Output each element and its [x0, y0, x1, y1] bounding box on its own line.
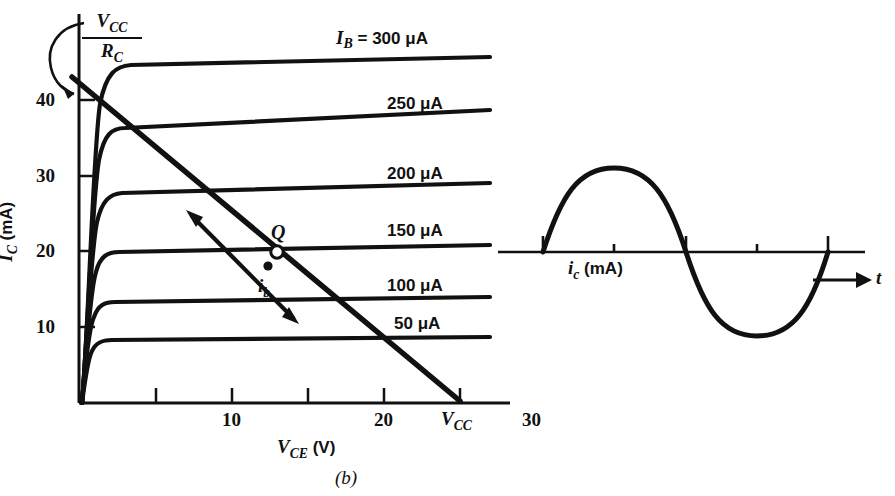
- y-axis-title: IC (mA): [0, 202, 20, 262]
- x-axis-vcc-symbol: V: [441, 408, 454, 429]
- y-tick-label-20: 20: [36, 241, 55, 260]
- x-tick-label-30: 30: [522, 410, 541, 429]
- curve-label-50uA: 50 μA: [394, 315, 440, 332]
- time-axis-label: t: [876, 268, 881, 287]
- left-plot-axes: [79, 14, 510, 403]
- fraction-numerator-subscript: CC: [109, 20, 127, 35]
- figure-caption: (b): [335, 468, 357, 487]
- fraction-numerator-symbol: V: [97, 10, 110, 31]
- curve-label-150uA: 150 μA: [387, 222, 443, 239]
- vcc-over-rc-fraction: VCC RC: [82, 10, 142, 66]
- y-axis-unit: (mA): [0, 202, 16, 241]
- ib-label-subscript: b: [263, 285, 270, 300]
- time-arrowhead: [856, 272, 872, 288]
- y-tick-label-30: 30: [36, 166, 55, 185]
- x-axis-ticks: [156, 388, 460, 403]
- fraction-denominator-subscript: C: [114, 50, 123, 65]
- q-point-label: Q: [271, 222, 285, 242]
- q-point-marker: [271, 246, 283, 258]
- x-axis-subscript: CE: [290, 446, 308, 461]
- curve-label-250uA: 250 μA: [387, 95, 443, 112]
- ib-label-group: ib: [258, 276, 270, 299]
- curve-label-300uA-group: IB = 300 μA: [336, 28, 428, 51]
- curve-label-300uA: 300 μA: [372, 29, 428, 48]
- ib-family-subscript: B: [343, 36, 352, 51]
- fraction-denominator: RC: [82, 40, 142, 66]
- figure-root: 10 20 30 40 IC (mA) 10 20 30 VCC VCE (V)…: [0, 0, 895, 496]
- x-tick-label-20: 20: [374, 410, 393, 429]
- curve-label-200uA: 200 μA: [387, 165, 443, 182]
- ic-label-unit: (mA): [584, 259, 623, 278]
- x-tick-label-10: 10: [222, 410, 241, 429]
- fraction-denominator-symbol: R: [101, 40, 114, 61]
- y-axis-subscript: C: [5, 245, 20, 254]
- x-axis-vcc-subscript: CC: [454, 418, 472, 433]
- ib-point-marker: [263, 261, 272, 270]
- x-axis-vcc-label: VCC: [441, 409, 472, 432]
- x-axis-unit: (V): [313, 438, 336, 457]
- curve-label-100uA: 100 μA: [387, 277, 443, 294]
- ic-waveform-label-group: ic (mA): [568, 258, 623, 281]
- x-axis-title: VCE (V): [277, 437, 335, 460]
- fraction-bar: [82, 37, 142, 39]
- x-axis-symbol: V: [277, 436, 290, 457]
- y-tick-label-10: 10: [36, 317, 55, 336]
- fraction-numerator: VCC: [82, 10, 142, 36]
- ib-family-equals: =: [357, 29, 367, 48]
- y-tick-label-40: 40: [36, 90, 55, 109]
- y-axis-symbol: I: [0, 254, 16, 261]
- curve-50uA: [82, 337, 490, 403]
